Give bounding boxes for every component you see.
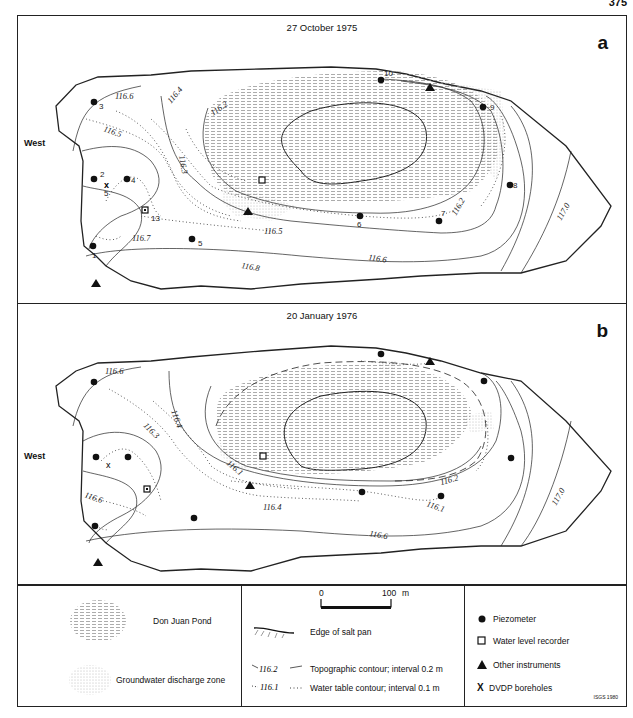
pond-swatch-icon xyxy=(68,599,128,644)
scale-start: 0 xyxy=(319,588,324,598)
piezometer-icon xyxy=(477,614,487,624)
svg-text:8: 8 xyxy=(513,181,518,190)
legend-water-label: Water table contour; interval 0.1 m xyxy=(310,683,440,693)
legend-borehole-label: DVDP boreholes xyxy=(489,683,552,693)
scale-end: 100 xyxy=(382,588,396,598)
water-table-contour-icon: 116.1 xyxy=(250,680,305,694)
legend-areas: Don Juan Pond Groundwater discharge zone xyxy=(18,585,241,706)
svg-text:7: 7 xyxy=(441,209,446,218)
legend-piezometer-label: Piezometer xyxy=(493,614,536,624)
map-canvas-a: 116.6 116.4 116.2 116.5 116.3 116.7 116.… xyxy=(18,16,628,306)
legend-instruments-label: Other instruments xyxy=(493,660,561,670)
svg-text:2: 2 xyxy=(100,170,105,179)
svg-text:13: 13 xyxy=(151,214,160,223)
legend-topo-label: Topographic contour; interval 0.2 m xyxy=(310,664,443,674)
legend-discharge-label: Groundwater discharge zone xyxy=(116,675,225,685)
svg-text:116.4: 116.4 xyxy=(263,502,282,512)
svg-text:1: 1 xyxy=(92,251,97,260)
map-canvas-b: 116.6 116.4 116.3 116.1 116.4 116.6 116.… xyxy=(18,304,628,587)
svg-text:116.5: 116.5 xyxy=(264,226,283,236)
recorder-icon xyxy=(477,636,487,646)
svg-text:116.6: 116.6 xyxy=(115,91,134,101)
discharge-swatch-icon xyxy=(68,664,113,696)
svg-text:x: x xyxy=(106,460,111,470)
legend-symbols: Piezometer Water level recorder Other in… xyxy=(464,585,626,706)
credit: ISGS 1980 xyxy=(594,694,618,700)
legend-edge-label: Edge of salt pan xyxy=(310,627,371,637)
svg-text:4: 4 xyxy=(131,176,136,185)
legend-lines: 0 100 m Edge of salt pan 116.2 Topograph… xyxy=(241,585,464,706)
scale-unit: m xyxy=(402,588,409,598)
borehole-icon: X xyxy=(477,682,484,693)
svg-text:116.2: 116.2 xyxy=(259,664,278,674)
svg-text:5: 5 xyxy=(104,189,109,198)
svg-text:116.7: 116.7 xyxy=(132,233,151,243)
scale-bar-icon xyxy=(320,599,400,611)
svg-text:x: x xyxy=(104,180,109,190)
legend: Don Juan Pond Groundwater discharge zone… xyxy=(17,584,627,707)
legend-recorder-label: Water level recorder xyxy=(493,636,569,646)
svg-text:6: 6 xyxy=(357,220,362,229)
page-number: 375 xyxy=(609,0,627,8)
salt-pan-edge-icon xyxy=(252,625,297,639)
svg-text:5: 5 xyxy=(198,239,203,248)
map-panel-b: 20 January 1976 b West xyxy=(17,303,627,586)
svg-text:9: 9 xyxy=(490,103,495,112)
topographic-contour-icon: 116.2 xyxy=(250,662,305,676)
instrument-icon xyxy=(476,660,488,670)
legend-pond-label: Don Juan Pond xyxy=(153,616,212,626)
svg-text:10: 10 xyxy=(384,69,393,78)
map-panel-a: 27 October 1975 a West xyxy=(17,15,627,305)
svg-text:116.6: 116.6 xyxy=(105,366,124,376)
svg-text:3: 3 xyxy=(99,102,104,111)
svg-text:116.1: 116.1 xyxy=(260,682,279,692)
don-juan-pond xyxy=(216,363,471,474)
